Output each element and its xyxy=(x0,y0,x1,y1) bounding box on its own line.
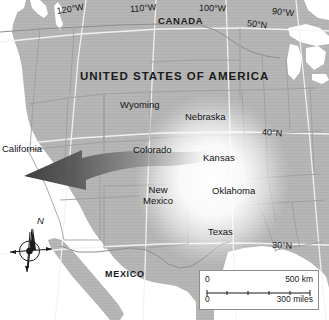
compass-hub xyxy=(26,248,33,255)
scale-km-zero: 0 xyxy=(205,274,210,284)
scale-row-km: 0 500 km xyxy=(200,274,318,289)
scale-miles-zero: 0 xyxy=(205,294,210,304)
scale-row-miles: 0 300 miles xyxy=(200,294,318,309)
scale-miles-value: 300 miles xyxy=(277,294,313,304)
scale-km-value: 500 km xyxy=(285,274,313,284)
compass-rose-graphic xyxy=(6,216,58,278)
compass-arm-tip-east xyxy=(46,247,52,251)
scale-bar: 0 500 km 0 300 miles xyxy=(199,270,319,310)
compass-north-label: N xyxy=(37,215,44,226)
source-glow-highlight xyxy=(134,94,290,266)
compass-arm-tip-west xyxy=(10,250,16,254)
compass-rose: N xyxy=(6,216,58,278)
compass-arm-tip-south xyxy=(25,266,29,272)
map-figure: CANADA UNITED STATES OF AMERICA MEXICO C… xyxy=(0,0,329,320)
